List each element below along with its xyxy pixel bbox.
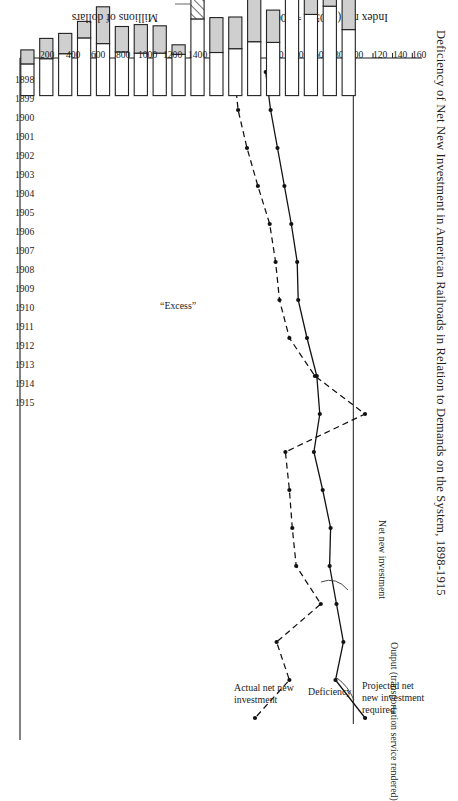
bottom-category-1902: 1902 [15,150,34,161]
bottom-ytick-200: 200 [40,49,54,60]
bottom-category-1905: 1905 [15,207,34,218]
bar-group-1911 [267,10,280,96]
bottom-category-1900: 1900 [15,112,34,123]
bottom-category-1910: 1910 [15,302,34,313]
bottom-category-1909: 1909 [15,283,34,294]
bar-group-1903 [115,27,128,96]
bar-group-1910 [248,0,261,96]
bar-group-1899 [40,38,53,95]
legend-deficiency: Deficiency [308,686,351,697]
bottom-category-1908: 1908 [15,264,34,275]
annotation-excess: “Excess” [160,300,196,311]
bar-group-1904 [134,25,147,96]
bar-group-1914 [323,0,336,96]
bar-group-1907 [191,0,204,96]
bottom-category-1914: 1914 [15,378,34,389]
bottom-category-1907: 1907 [15,245,34,256]
bottom-category-1901: 1901 [15,131,34,142]
legend-projected-line3: required [362,704,395,715]
legend-actual-line2: investment [234,694,277,705]
bar-group-1912 [285,0,298,96]
bar-group-1915 [342,0,355,96]
bar-group-1909 [229,17,242,96]
bottom-category-1913: 1913 [15,359,34,370]
bar-group-1900 [59,33,72,95]
legend-projected-line2: new investment [362,692,424,703]
bottom-category-1899: 1899 [15,93,34,104]
bar-group-1905 [153,26,166,96]
bottom-category-1903: 1903 [15,169,34,180]
bottom-ytick-800: 800 [116,49,130,60]
bar-group-1898 [21,50,34,96]
bottom-category-1915: 1915 [15,397,34,408]
bottom-ytick-1400: 1400 [188,49,207,60]
bottom-y-axis-label: Millions of dollars [72,11,158,24]
bottom-axis-group [20,53,212,740]
bar-group-1913 [304,0,317,96]
bottom-category-1912: 1912 [15,340,34,351]
bottom-ytick-1200: 1200 [163,49,182,60]
bar-group-1908 [210,18,223,96]
bottom-ytick-1000: 1000 [138,49,157,60]
legend-projected-line1: Projected net [362,680,414,691]
bottom-category-1911: 1911 [15,321,34,332]
bottom-category-1906: 1906 [15,226,34,237]
bottom-ytick-400: 400 [66,49,80,60]
bottom-category-1898: 1898 [15,74,34,85]
legend-actual-line1: Actual net new [234,682,294,693]
bottom-ytick-600: 600 [91,49,105,60]
bottom-category-1904: 1904 [15,188,34,199]
